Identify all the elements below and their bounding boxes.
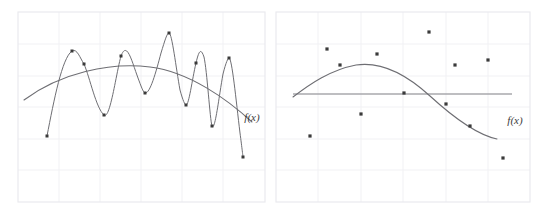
data-point xyxy=(444,102,447,105)
data-point xyxy=(338,63,341,66)
data-point xyxy=(185,104,188,107)
curve-label-fx: f(x) xyxy=(507,114,523,127)
data-point xyxy=(120,55,123,58)
data-point xyxy=(359,112,362,115)
data-point xyxy=(83,63,86,66)
underfitting-plot-svg: f(x) xyxy=(272,0,545,212)
data-point xyxy=(486,58,489,61)
data-point xyxy=(195,62,198,65)
data-point xyxy=(453,63,456,66)
data-point xyxy=(468,124,471,127)
data-point xyxy=(375,52,378,55)
data-point xyxy=(501,156,504,159)
data-point xyxy=(168,32,171,35)
data-point xyxy=(427,30,430,33)
data-point xyxy=(71,50,74,53)
curve-label-fx: f(x) xyxy=(244,111,260,124)
data-point xyxy=(308,134,311,137)
figure-root: f(x) xyxy=(0,0,545,212)
data-point xyxy=(211,125,214,128)
overfitting-panel: f(x) xyxy=(0,0,273,212)
data-point xyxy=(46,135,49,138)
data-point xyxy=(103,114,106,117)
data-point xyxy=(242,156,245,159)
data-point xyxy=(228,57,231,60)
overfitting-plot-svg: f(x) xyxy=(0,0,273,212)
data-point xyxy=(325,47,328,50)
underfitting-panel: f(x) xyxy=(272,0,545,212)
data-point xyxy=(144,92,147,95)
data-point xyxy=(402,91,405,94)
